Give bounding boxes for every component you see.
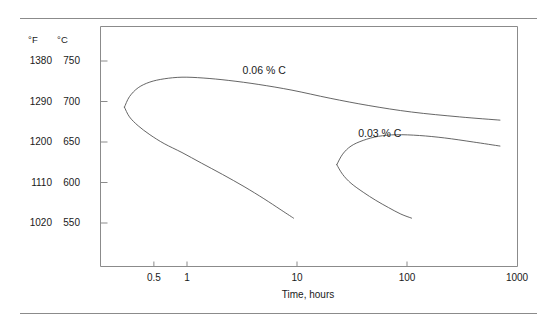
curve-annotation-label: 0.03 % C — [358, 127, 401, 139]
x-tick-label: 1000 — [506, 272, 528, 283]
axis-header-celsius: °C — [57, 34, 68, 45]
x-axis-ticks — [154, 262, 407, 267]
y-tick-label-fahrenheit: 1290 — [20, 96, 52, 107]
y-tick-label-celsius: 750 — [56, 55, 80, 66]
chart-svg — [0, 0, 557, 324]
y-tick-label-fahrenheit: 1110 — [20, 177, 52, 188]
curve-upper-branch — [124, 77, 500, 120]
x-tick-label: 100 — [399, 272, 416, 283]
y-tick-label-celsius: 700 — [56, 96, 80, 107]
y-tick-label-fahrenheit: 1020 — [20, 217, 52, 228]
figure-page: °F °C 1380750129070012006501110600102055… — [0, 0, 557, 324]
curve-annotation-label: 0.06 % C — [243, 64, 286, 76]
x-tick-label: 0.5 — [147, 272, 161, 283]
y-tick-label-fahrenheit: 1200 — [20, 136, 52, 147]
y-tick-label-fahrenheit: 1380 — [20, 55, 52, 66]
ttt-curve — [124, 77, 500, 218]
y-axis-ticks — [101, 61, 108, 223]
y-tick-label-celsius: 650 — [56, 136, 80, 147]
y-tick-label-celsius: 600 — [56, 177, 80, 188]
ttt-curve — [337, 135, 500, 218]
x-tick-label: 10 — [291, 272, 302, 283]
x-tick-label: 1 — [184, 272, 190, 283]
plot-frame — [101, 27, 518, 267]
y-tick-label-celsius: 550 — [56, 217, 80, 228]
x-axis-title: Time, hours — [282, 289, 334, 300]
ttt-diagram-figure — [0, 0, 557, 324]
axis-header-fahrenheit: °F — [28, 34, 38, 45]
curve-lower-branch — [124, 107, 293, 218]
curve-upper-branch — [337, 135, 500, 165]
ttt-curves — [124, 77, 500, 218]
curve-lower-branch — [337, 165, 412, 218]
